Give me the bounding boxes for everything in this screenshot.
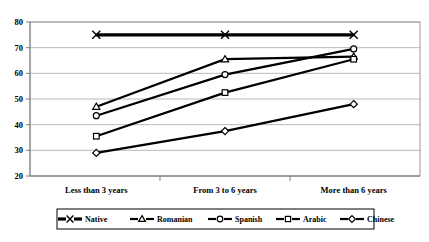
x-axis-labels: Less than 3 yearsFrom 3 to 6 yearsMore t…	[65, 185, 387, 195]
legend-label: Romanian	[157, 215, 193, 224]
y-tick-label: 60	[15, 68, 24, 78]
legend-label: Chinese	[367, 215, 395, 224]
x-axis-category-label: From 3 to 6 years	[193, 185, 257, 195]
x-axis-category-label: More than 6 years	[321, 185, 388, 195]
circle-marker	[93, 113, 99, 119]
legend-label: Spanish	[235, 215, 263, 224]
line-chart: 80706050403020 Less than 3 yearsFrom 3 t…	[0, 0, 429, 242]
square-marker	[94, 133, 100, 139]
y-tick-label: 50	[15, 94, 24, 104]
chart-canvas: 80706050403020 Less than 3 yearsFrom 3 t…	[0, 0, 429, 242]
square-marker	[285, 216, 290, 221]
x-axis-ticks	[160, 176, 290, 181]
circle-marker	[222, 72, 228, 78]
y-tick-label: 20	[15, 171, 24, 181]
chart-legend: NativeRomanianSpanishArabicChinese	[57, 209, 395, 229]
y-tick-label: 70	[15, 43, 24, 53]
legend-label: Arabic	[303, 215, 327, 224]
y-tick-label: 40	[15, 120, 24, 130]
circle-marker	[351, 46, 357, 52]
square-marker	[222, 90, 228, 96]
circle-marker	[217, 216, 223, 222]
square-marker	[351, 56, 357, 62]
y-axis-ticks: 80706050403020	[15, 17, 31, 181]
legend-label: Native	[85, 215, 108, 224]
y-tick-label: 80	[15, 17, 24, 27]
x-axis-category-label: Less than 3 years	[65, 185, 128, 195]
y-tick-label: 30	[15, 145, 24, 155]
